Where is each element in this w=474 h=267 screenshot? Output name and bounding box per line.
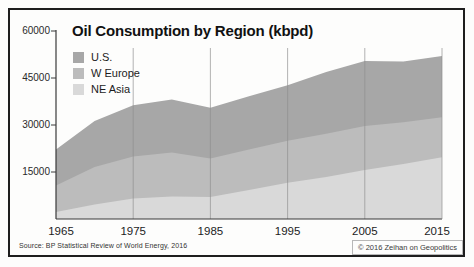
legend-swatch-us: [73, 52, 84, 63]
chart-page: Oil Consumption by Region (kbpd) U.S. W …: [0, 0, 474, 267]
chart-legend: U.S. W Europe NE Asia: [73, 49, 140, 97]
legend-label-w-europe: W Europe: [91, 67, 140, 79]
y-tick-label-45000: 45000: [12, 73, 50, 83]
y-tick-label-60000: 60000: [12, 26, 50, 36]
x-tick-label-2015: 2015: [424, 225, 450, 237]
y-tick-label-15000: 15000: [12, 167, 50, 177]
legend-swatch-w-europe: [73, 68, 84, 79]
source-note: Source: BP Statistical Review of World E…: [19, 242, 187, 249]
copyright-badge: © 2016 Zeihan on Geopolitics: [352, 240, 463, 255]
x-tick-label-1995: 1995: [275, 225, 301, 237]
y-tick-label-30000: 30000: [12, 120, 50, 130]
x-tick-label-2005: 2005: [352, 225, 378, 237]
legend-swatch-ne-asia: [73, 84, 84, 95]
page-title: Oil Consumption by Region (kbpd): [72, 22, 313, 39]
legend-item-w-europe: W Europe: [73, 65, 140, 81]
legend-label-ne-asia: NE Asia: [91, 83, 130, 95]
legend-item-ne-asia: NE Asia: [73, 81, 140, 97]
x-tick-label-1965: 1965: [48, 225, 74, 237]
legend-item-us: U.S.: [73, 49, 140, 65]
x-tick-label-1975: 1975: [120, 225, 146, 237]
x-tick-label-1985: 1985: [198, 225, 224, 237]
legend-label-us: U.S.: [91, 51, 112, 63]
